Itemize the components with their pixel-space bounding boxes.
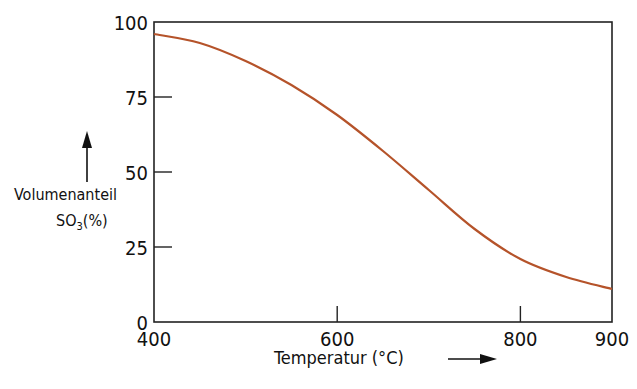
- x-tick-label: 900: [595, 327, 629, 351]
- x-tick-label: 800: [503, 327, 537, 351]
- x-tick-label: 400: [137, 327, 171, 351]
- line-chart: 0255075100400600800900Temperatur (°C)Vol…: [0, 0, 637, 389]
- x-axis-arrow-icon: [480, 354, 497, 364]
- y-tick-label: 75: [125, 86, 148, 110]
- y-axis-label-line1: Volumenanteil: [14, 185, 117, 204]
- y-tick-label: 100: [114, 11, 148, 35]
- x-axis-label: Temperatur (°C): [273, 347, 404, 368]
- series-line: [154, 34, 612, 289]
- y-axis-arrow-icon: [82, 131, 92, 148]
- plot-frame: [154, 22, 612, 322]
- y-tick-label: 25: [125, 236, 148, 260]
- y-tick-label: 50: [125, 161, 148, 185]
- y-axis-label-line2: SO3(%): [56, 211, 108, 233]
- chart-root: 0255075100400600800900Temperatur (°C)Vol…: [0, 0, 637, 389]
